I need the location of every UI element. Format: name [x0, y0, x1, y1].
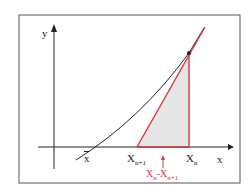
diff-b-sub: n+1 [167, 174, 178, 182]
xn1-base: X [127, 152, 135, 164]
difference-label: Xn-Xn+1 [146, 169, 178, 182]
x-axis-arrow-icon [228, 144, 234, 150]
xn1-sub: n+1 [135, 159, 146, 167]
diff-arrow-icon [161, 155, 165, 160]
y-axis-label: y [42, 28, 48, 39]
tangent-point [187, 51, 191, 55]
xn-sub: n [194, 159, 198, 167]
xn-base: X [186, 152, 194, 164]
y-axis-arrow-icon [51, 24, 57, 32]
root-label: x [84, 153, 90, 164]
xn-label: Xn [186, 153, 197, 167]
newton-diagram [0, 0, 252, 194]
x-axis-label: x [217, 154, 223, 165]
diff-mid: -X [157, 168, 168, 179]
xn1-label: Xn+1 [127, 153, 146, 167]
